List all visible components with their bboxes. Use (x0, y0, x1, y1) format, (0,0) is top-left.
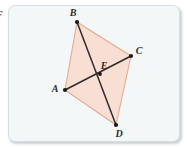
figure-card: B C D A E (8, 5, 180, 142)
vertex-label-B: B (69, 7, 77, 18)
vertex-dot-E (98, 72, 102, 76)
clipped-figure-letter: F (0, 8, 4, 20)
screenshot-root: F B C D A E (0, 0, 187, 147)
quadrilateral-diagram: B C D A E (9, 6, 179, 141)
vertex-dot-D (114, 123, 118, 127)
vertex-dot-C (129, 54, 133, 58)
vertex-label-C: C (136, 45, 143, 56)
vertex-dot-A (63, 88, 67, 92)
vertex-label-A: A (51, 83, 59, 94)
vertex-label-D: D (114, 128, 122, 139)
vertex-label-E: E (100, 60, 108, 71)
vertex-dot-B (75, 20, 79, 24)
